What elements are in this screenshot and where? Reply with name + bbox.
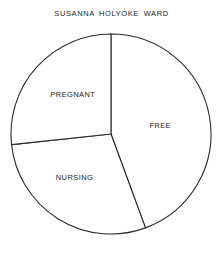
slice-label-free: FREE: [149, 121, 171, 130]
pie-slices: [11, 34, 211, 234]
slice-label-nursing: NURSING: [56, 173, 93, 182]
pie-chart: FREENURSINGPREGNANT: [0, 0, 223, 253]
slice-label-pregnant: PREGNANT: [50, 90, 95, 99]
